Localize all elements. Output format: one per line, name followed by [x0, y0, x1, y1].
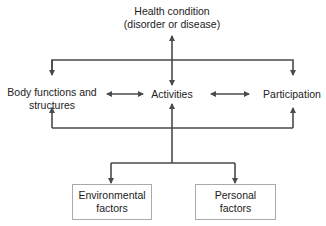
- environmental-factors-box: Environmental factors: [72, 184, 152, 220]
- personal-factors-box: Personal factors: [195, 184, 276, 220]
- activities-node: Activities: [142, 88, 202, 101]
- body-functions-line2: structures: [2, 99, 102, 112]
- personal-line1: Personal: [215, 189, 256, 202]
- environmental-line1: Environmental: [78, 189, 145, 202]
- body-functions-line1: Body functions and: [2, 86, 102, 99]
- participation-node: Participation: [256, 88, 326, 101]
- health-condition-line2: (disorder or disease): [112, 18, 232, 31]
- environmental-line2: factors: [78, 202, 145, 215]
- activities-label: Activities: [142, 88, 202, 101]
- participation-label: Participation: [256, 88, 326, 101]
- health-condition-node: Health condition (disorder or disease): [112, 5, 232, 31]
- connector-lines: [0, 0, 326, 226]
- health-condition-line1: Health condition: [112, 5, 232, 18]
- body-functions-node: Body functions and structures: [2, 86, 102, 112]
- personal-line2: factors: [215, 202, 256, 215]
